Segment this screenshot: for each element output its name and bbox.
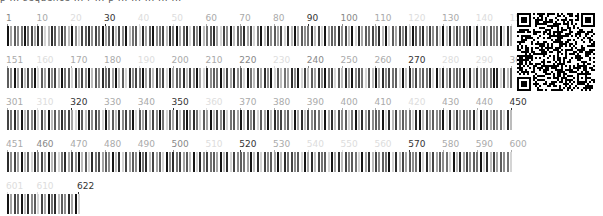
- position-bar: [368, 110, 370, 130]
- position-bar: [334, 68, 336, 88]
- position-bar: [257, 68, 259, 88]
- position-bar: [405, 152, 407, 172]
- position-bar: [382, 26, 384, 46]
- position-label: 260: [374, 55, 391, 65]
- position-bar: [196, 152, 198, 172]
- position-bar: [27, 194, 29, 214]
- position-bar: [71, 194, 73, 214]
- position-bar: [490, 152, 492, 172]
- position-bar: [75, 26, 77, 46]
- position-bar: [61, 194, 63, 214]
- position-bar: [24, 26, 26, 46]
- position-bar: [419, 152, 421, 172]
- position-bar: [297, 152, 299, 172]
- position-bar: [253, 152, 255, 172]
- position-label: 370: [239, 97, 256, 107]
- position-bar: [385, 110, 387, 130]
- position-bar: [95, 68, 97, 88]
- position-bar: [122, 68, 124, 88]
- position-bar: [507, 68, 509, 88]
- position-bar: [422, 68, 424, 88]
- position-bar: [260, 110, 262, 130]
- position-bar: [58, 26, 60, 46]
- position-bar: [203, 68, 205, 88]
- position-bar: [142, 110, 144, 130]
- position-bar: [237, 68, 239, 88]
- position-bar: [129, 68, 131, 88]
- position-bar: [186, 152, 188, 172]
- position-bar: [412, 152, 414, 172]
- position-bar: [399, 26, 401, 46]
- position-bar: [61, 152, 63, 172]
- position-bar: [85, 26, 87, 46]
- position-bar: [469, 68, 471, 88]
- position-bar: [220, 110, 222, 130]
- position-bar: [142, 26, 144, 46]
- position-bar: [64, 110, 66, 130]
- position-bar: [108, 26, 110, 46]
- position-bar: [145, 110, 147, 130]
- position-bar: [304, 152, 306, 172]
- position-bar: [422, 152, 424, 172]
- position-bar: [321, 110, 323, 130]
- position-bar: [88, 110, 90, 130]
- position-bar: [301, 68, 303, 88]
- position-bar: [338, 26, 340, 46]
- position-bar: [54, 194, 56, 214]
- position-bar: [483, 26, 485, 46]
- position-bar: [243, 110, 245, 130]
- position-bar: [355, 152, 357, 172]
- position-bar: [159, 152, 161, 172]
- position-bar: [466, 68, 468, 88]
- position-bar: [135, 68, 137, 88]
- position-bar: [68, 68, 70, 88]
- position-bar: [112, 110, 114, 130]
- position-bar: [122, 152, 124, 172]
- position-label: 60: [205, 13, 216, 23]
- position-label: 520: [239, 139, 256, 149]
- position-bar: [21, 194, 23, 214]
- position-label: 160: [36, 55, 53, 65]
- position-bar: [237, 110, 239, 130]
- position-bar: [51, 68, 53, 88]
- position-label: 170: [70, 55, 87, 65]
- position-bar: [247, 68, 249, 88]
- position-bar: [392, 68, 394, 88]
- position-bar: [220, 68, 222, 88]
- position-bar: [34, 194, 36, 214]
- position-bar: [250, 68, 252, 88]
- position-bar: [361, 110, 363, 130]
- position-bar: [95, 110, 97, 130]
- position-bar: [166, 68, 168, 88]
- position-bar: [189, 68, 191, 88]
- position-label: 580: [442, 139, 459, 149]
- position-bar: [54, 152, 56, 172]
- position-bar: [291, 152, 293, 172]
- position-label: 440: [476, 97, 493, 107]
- position-bar: [429, 110, 431, 130]
- position-label: 450: [510, 97, 527, 107]
- position-label: 230: [273, 55, 290, 65]
- position-bar: [334, 26, 336, 46]
- sequence-row: 1511601701801902002102202302402502602702…: [7, 55, 514, 88]
- position-label: 550: [341, 139, 358, 149]
- position-bar: [253, 110, 255, 130]
- position-label: 30: [104, 13, 115, 23]
- position-bar: [334, 152, 336, 172]
- position-bar: [34, 68, 36, 88]
- position-bar: [503, 110, 505, 130]
- position-bar: [314, 26, 316, 46]
- position-labels: 1102030405060708090100110120130140150: [7, 13, 514, 24]
- position-bar: [233, 26, 235, 46]
- position-bar: [429, 26, 431, 46]
- position-label: 1: [6, 13, 12, 23]
- position-label: 622: [77, 181, 94, 191]
- position-bar: [7, 68, 9, 88]
- position-bar: [419, 26, 421, 46]
- position-bar: [287, 68, 289, 88]
- position-label: 180: [104, 55, 121, 65]
- position-bar: [81, 26, 83, 46]
- position-bar: [439, 110, 441, 130]
- position-bar: [166, 26, 168, 46]
- position-bar: [490, 68, 492, 88]
